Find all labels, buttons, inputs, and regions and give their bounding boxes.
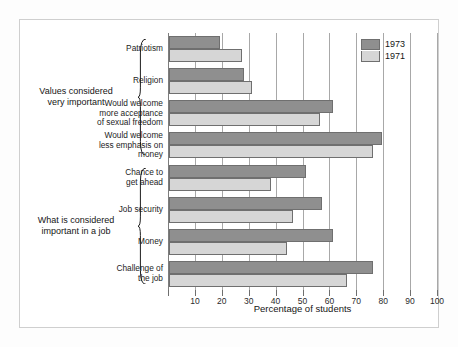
bar-1971-1 bbox=[169, 81, 252, 94]
category-label-line: of sexual freedom bbox=[51, 118, 163, 128]
legend-label-1971: 1971 bbox=[385, 51, 405, 61]
category-label-2: Would welcomemore acceptanceof sexual fr… bbox=[51, 99, 163, 128]
bar-1973-6 bbox=[169, 229, 333, 242]
bar-1971-6 bbox=[169, 242, 287, 255]
bar-1971-0 bbox=[169, 49, 242, 62]
gridline-100 bbox=[437, 33, 438, 290]
legend-entry-1971: 1971 bbox=[361, 50, 431, 62]
category-label-line: Patriotism bbox=[51, 44, 163, 54]
category-label-5: Job security bbox=[51, 205, 163, 215]
legend-label-1973: 1973 bbox=[385, 39, 405, 49]
category-label-line: the job bbox=[51, 274, 163, 284]
x-axis-label: Percentage of students bbox=[168, 303, 437, 314]
chart-figure: Values consideredvery importantWhat is c… bbox=[0, 0, 458, 347]
bar-1971-2 bbox=[169, 113, 320, 126]
legend-entry-1973: 1973 bbox=[361, 38, 431, 50]
category-label-container: PatriotismReligionWould welcomemore acce… bbox=[48, 33, 163, 290]
bar-1973-4 bbox=[169, 165, 306, 178]
gridline-90 bbox=[410, 33, 411, 290]
bar-1971-5 bbox=[169, 210, 293, 223]
category-label-1: Religion bbox=[51, 76, 163, 86]
bar-1971-4 bbox=[169, 178, 271, 191]
category-label-line: Money bbox=[51, 237, 163, 247]
gridline-60 bbox=[329, 33, 330, 290]
category-label-line: Job security bbox=[51, 205, 163, 215]
category-label-line: get ahead bbox=[51, 178, 163, 188]
category-label-7: Challenge ofthe job bbox=[51, 264, 163, 283]
gridline-70 bbox=[356, 33, 357, 290]
category-label-0: Patriotism bbox=[51, 44, 163, 54]
bar-1973-0 bbox=[169, 36, 220, 49]
plot-area bbox=[168, 33, 437, 290]
bar-1973-3 bbox=[169, 132, 382, 145]
legend-swatch-1973 bbox=[361, 39, 380, 50]
bar-1973-2 bbox=[169, 100, 333, 113]
bar-1971-7 bbox=[169, 274, 347, 287]
category-label-6: Money bbox=[51, 237, 163, 247]
gridline-80 bbox=[383, 33, 384, 290]
bar-1973-5 bbox=[169, 197, 322, 210]
category-label-4: Chance toget ahead bbox=[51, 168, 163, 187]
category-label-line: money bbox=[51, 150, 163, 160]
bar-1971-3 bbox=[169, 145, 373, 158]
legend-swatch-1971 bbox=[361, 51, 380, 62]
bar-1973-1 bbox=[169, 68, 244, 81]
tickmark-0 bbox=[168, 290, 169, 296]
category-label-line: Religion bbox=[51, 76, 163, 86]
bar-1973-7 bbox=[169, 261, 373, 274]
gridline-50 bbox=[303, 33, 304, 290]
category-label-3: Would welcomeless emphasis onmoney bbox=[51, 131, 163, 160]
chart-legend: 1973 1971 bbox=[361, 38, 431, 62]
